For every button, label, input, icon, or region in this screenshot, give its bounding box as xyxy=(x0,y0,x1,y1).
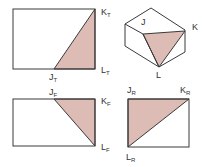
label-l-front: LF xyxy=(101,142,110,153)
label-l-top: LT xyxy=(101,65,110,76)
top-view: KT LT JT xyxy=(13,7,111,83)
label-k-top: KT xyxy=(101,7,111,18)
label-j-right: JR xyxy=(127,85,137,96)
cube-top-back-edges xyxy=(125,8,185,30)
orthographic-projection-diagram: KT LT JT J K L JF KF xyxy=(0,0,203,167)
front-view: JF KF LF xyxy=(13,87,111,153)
label-j-top: JT xyxy=(49,72,58,83)
label-l-right: LR xyxy=(126,152,136,163)
front-view-shaded-triangle xyxy=(54,99,95,146)
label-k-right: KR xyxy=(180,85,191,96)
label-l-iso: L xyxy=(156,70,161,80)
label-j-iso: J xyxy=(141,17,146,27)
right-view-shaded-triangle xyxy=(128,99,189,147)
top-view-shaded-triangle xyxy=(54,9,95,69)
isometric-view: J K L xyxy=(125,8,198,80)
label-j-front: JF xyxy=(49,87,58,98)
label-k-iso: K xyxy=(192,22,198,32)
right-side-view: JR KR LR xyxy=(126,85,191,163)
label-k-front: KF xyxy=(101,96,111,107)
isometric-shaded-triangle xyxy=(143,31,185,67)
